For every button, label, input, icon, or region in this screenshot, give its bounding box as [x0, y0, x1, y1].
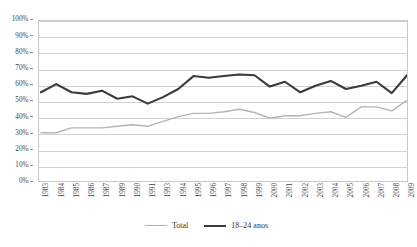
- x-axis-tick-1990: 1990: [135, 183, 142, 217]
- series-layer: [39, 21, 408, 182]
- x-axis-tick-1983: 1983: [43, 183, 50, 217]
- x-axis-tick-2003: 2003: [318, 183, 325, 217]
- x-axis-tick-2004: 2004: [333, 183, 340, 217]
- chart-title: [0, 0, 413, 1]
- y-axis-tick-0pct: 0%: [19, 178, 33, 185]
- y-axis-tick-10pct: 10%: [15, 162, 33, 169]
- x-axis-tick-2009: 2009: [409, 183, 416, 217]
- x-axis-tick-1996: 1996: [211, 183, 218, 217]
- x-axis-tick-1995: 1995: [196, 183, 203, 217]
- x-axis-tick-1991: 1991: [150, 183, 157, 217]
- x-axis-tick-2007: 2007: [379, 183, 386, 217]
- y-axis-tick-50pct: 50%: [15, 97, 33, 104]
- x-axis-tick-1993: 1993: [165, 183, 172, 217]
- y-axis-tick-80pct: 80%: [15, 49, 33, 56]
- x-axis-tick-1989: 1989: [120, 183, 127, 217]
- series-line-youth: [41, 74, 407, 103]
- x-axis-tick-2006: 2006: [364, 183, 371, 217]
- x-axis-tick-1999: 1999: [257, 183, 264, 217]
- legend-item-youth[interactable]: 18–24 anos: [204, 221, 268, 230]
- x-axis-tick-1998: 1998: [242, 183, 249, 217]
- series-line-total: [41, 100, 407, 132]
- x-axis-tick-2000: 2000: [272, 183, 279, 217]
- y-axis-tick-90pct: 90%: [15, 33, 33, 40]
- y-axis-tick-40pct: 40%: [15, 114, 33, 121]
- legend-item-total[interactable]: Total: [145, 221, 188, 230]
- x-axis-tick-1997: 1997: [226, 183, 233, 217]
- x-axis-tick-1987: 1987: [104, 183, 111, 217]
- x-axis-tick-2005: 2005: [348, 183, 355, 217]
- chart-legend: Total 18–24 anos: [0, 221, 413, 230]
- x-axis-tick-1984: 1984: [59, 183, 66, 217]
- y-axis-tick-20pct: 20%: [15, 146, 33, 153]
- x-axis: 1983198419851986198719891990199119931994…: [38, 183, 408, 217]
- legend-label-youth: 18–24 anos: [231, 221, 268, 230]
- legend-label-total: Total: [172, 221, 188, 230]
- x-axis-tick-2002: 2002: [303, 183, 310, 217]
- x-axis-tick-1986: 1986: [89, 183, 96, 217]
- x-axis-tick-2008: 2008: [394, 183, 401, 217]
- x-axis-tick-1985: 1985: [74, 183, 81, 217]
- legend-swatch-youth-icon: [204, 225, 226, 227]
- y-axis-tick-60pct: 60%: [15, 81, 33, 88]
- x-axis-tick-1994: 1994: [181, 183, 188, 217]
- legend-swatch-total-icon: [145, 225, 167, 226]
- y-axis-tick-70pct: 70%: [15, 65, 33, 72]
- plot-area: [38, 20, 408, 182]
- y-axis-tick-100pct: 100%: [12, 16, 33, 23]
- x-axis-tick-2001: 2001: [287, 183, 294, 217]
- y-axis-tick-30pct: 30%: [15, 130, 33, 137]
- y-axis: 100%90%80%70%60%50%40%30%20%10%0%: [0, 0, 36, 247]
